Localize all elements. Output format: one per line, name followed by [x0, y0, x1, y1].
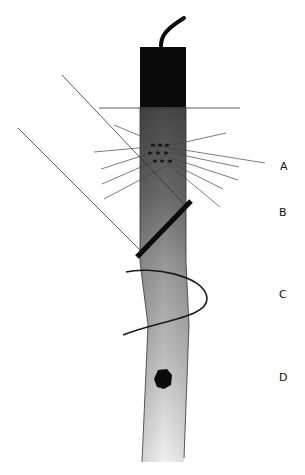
- label-a: A: [280, 160, 288, 173]
- label-c: C: [279, 288, 287, 301]
- label-b: B: [279, 206, 287, 219]
- tube-diagram: [0, 0, 305, 475]
- diagram-canvas: A B C D: [0, 0, 305, 475]
- wire: [161, 18, 184, 48]
- label-d: D: [279, 371, 287, 384]
- diagonal-line-2: [18, 128, 140, 250]
- tube-cap: [140, 47, 186, 107]
